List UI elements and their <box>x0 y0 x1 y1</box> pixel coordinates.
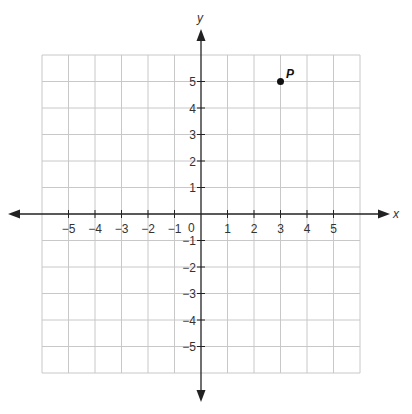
coordinate-plane: x y −5−4−3−2−112345 54321−1−2−3−4−5 0 P <box>0 0 412 414</box>
x-tick-label: −1 <box>168 222 182 236</box>
origin-label: 0 <box>188 221 195 235</box>
y-tick-label: −1 <box>182 234 196 248</box>
y-tick-label: 1 <box>189 181 196 195</box>
y-axis: y <box>196 11 206 402</box>
x-tick-label: 1 <box>224 222 231 236</box>
y-tick-label: 4 <box>189 102 196 116</box>
x-axis-left-arrow-icon <box>8 210 20 219</box>
y-tick-label: −2 <box>182 261 196 275</box>
x-tick-label: −3 <box>115 222 129 236</box>
y-tick-label: −4 <box>182 314 196 328</box>
point-p: P <box>277 67 295 85</box>
x-tick-label: −2 <box>141 222 155 236</box>
y-axis-down-arrow-icon <box>197 390 206 402</box>
y-tick-label: 3 <box>189 128 196 142</box>
x-tick-label: 3 <box>277 222 284 236</box>
y-axis-up-arrow-icon <box>197 29 206 41</box>
x-tick-label: −5 <box>62 222 76 236</box>
y-tick-label: 5 <box>189 75 196 89</box>
point-p-label: P <box>286 67 295 81</box>
x-axis-right-arrow-icon <box>378 210 390 219</box>
x-axis: x <box>8 207 400 221</box>
x-tick-label: 4 <box>304 222 311 236</box>
x-tick-labels: −5−4−3−2−112345 <box>62 222 338 236</box>
y-tick-label: −5 <box>182 340 196 354</box>
x-tick-label: −4 <box>88 222 102 236</box>
y-tick-label: 2 <box>189 155 196 169</box>
x-tick-label: 2 <box>251 222 258 236</box>
x-tick-label: 5 <box>330 222 337 236</box>
y-tick-label: −3 <box>182 287 196 301</box>
x-axis-label: x <box>392 207 400 221</box>
y-axis-label: y <box>196 11 204 25</box>
